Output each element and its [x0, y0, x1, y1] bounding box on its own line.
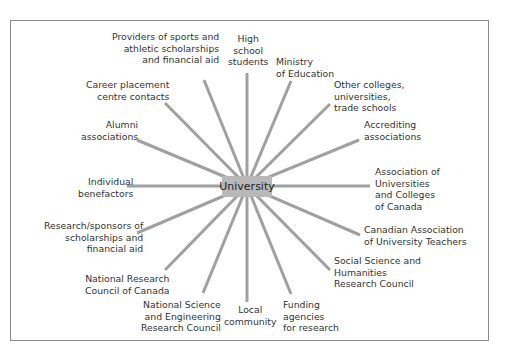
node-high-school-students: High school students [228, 33, 268, 68]
node-nrc: National Research Council of Canada [85, 273, 170, 296]
node-career-placement: Career placement centre contacts [86, 79, 169, 102]
node-caut: Canadian Association of University Teach… [364, 224, 467, 247]
node-sshrc: Social Science and Humanities Research C… [334, 255, 421, 290]
university-node: University [222, 176, 272, 197]
node-ministry-of-education: Ministry of Education [276, 56, 334, 79]
node-research-sponsors: Research/sponsors of scholarships and fi… [44, 220, 143, 255]
line-sshrc [247, 186, 330, 270]
node-accrediting-associations: Accrediting associations [364, 119, 421, 142]
university-label: University [219, 180, 275, 193]
node-individual-benefactors: Individual benefactors [78, 176, 133, 199]
node-aucc: Association of Universities and Colleges… [375, 166, 440, 212]
line-career-placement [165, 103, 247, 186]
node-funding-agencies: Funding agencies for research [283, 299, 339, 334]
node-nserc: National Science and Engineering Researc… [141, 299, 221, 334]
node-alumni-associations: Alumni associations [81, 119, 138, 142]
node-other-colleges: Other colleges, universities, trade scho… [334, 79, 404, 114]
line-other-colleges [247, 104, 330, 186]
node-sports-providers: Providers of sports and athletic scholar… [112, 31, 219, 66]
line-nrc [165, 186, 247, 270]
node-local-community: Local community [224, 304, 276, 327]
